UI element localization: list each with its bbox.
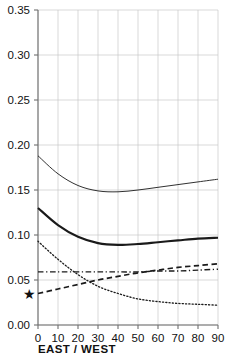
- line-chart: 0.000.050.100.150.200.250.300.35 0102030…: [0, 0, 228, 360]
- tick-marks: [34, 10, 218, 329]
- chart-container: 0.000.050.100.150.200.250.300.35 0102030…: [0, 0, 228, 360]
- grid-lines: [38, 10, 218, 325]
- y-axis-tick-label: 0.30: [8, 49, 30, 61]
- y-axis-tick-label: 0.35: [8, 4, 30, 16]
- series-line-dash-dot-flat: [38, 269, 218, 272]
- y-axis-tick-label: 0.10: [8, 229, 30, 241]
- series-line-thin-solid-upper: [38, 156, 218, 192]
- data-series: [38, 156, 218, 305]
- x-axis-tick-label: 60: [152, 332, 165, 344]
- axes: [38, 10, 218, 325]
- series-line-thick-solid-lower: [38, 208, 218, 245]
- annotations: ★: [23, 286, 36, 302]
- y-axis-tick-labels: 0.000.050.100.150.200.250.300.35: [8, 4, 30, 331]
- star-icon: ★: [23, 286, 36, 302]
- y-axis-tick-label: 0.15: [8, 184, 30, 196]
- x-axis-tick-label: 80: [192, 332, 205, 344]
- y-axis-tick-label: 0.00: [8, 319, 30, 331]
- y-axis-tick-label: 0.25: [8, 94, 30, 106]
- y-axis-tick-label: 0.05: [8, 274, 30, 286]
- y-axis-tick-label: 0.20: [8, 139, 30, 151]
- x-axis-title: EAST / WEST: [38, 343, 116, 355]
- series-line-long-dashed-rising: [38, 264, 218, 294]
- x-axis-tick-label: 50: [132, 332, 145, 344]
- x-axis-tick-label: 90: [212, 332, 225, 344]
- x-axis-tick-label: 70: [172, 332, 185, 344]
- series-line-dotted-falling: [38, 241, 218, 305]
